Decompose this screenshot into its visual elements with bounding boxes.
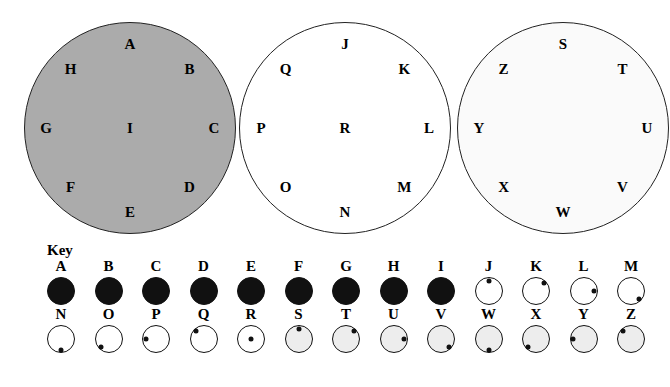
- key-letter-i: I: [418, 259, 464, 276]
- key-symbol-v: [427, 325, 455, 353]
- circle-two-label-j: J: [341, 37, 349, 52]
- circle-three-label-v: V: [617, 180, 628, 195]
- key-column-e: ER: [228, 259, 274, 355]
- key-circle-h: [380, 277, 408, 305]
- key-circle-v: [427, 325, 455, 353]
- key-column-i: IV: [418, 259, 464, 355]
- key-column-m: MZ: [608, 259, 654, 355]
- circle-two-label-n: N: [340, 205, 351, 220]
- circle-two-label-p: P: [256, 121, 265, 136]
- key-letter-v: V: [418, 307, 464, 324]
- key-symbol-l: [570, 277, 598, 305]
- key-symbol-w: [475, 325, 503, 353]
- circle-one-label-d: D: [184, 180, 195, 195]
- circle-diagram-area: ABCDEFGHIJKLMNOPQRSTUVWXYZ: [0, 0, 670, 245]
- key-circle-g: [332, 277, 360, 305]
- key-letter-q: Q: [181, 307, 227, 324]
- key-letter-f: F: [276, 259, 322, 276]
- key-symbol-e: [237, 277, 265, 305]
- key-column-h: HU: [371, 259, 417, 355]
- circle-one-label-c: C: [209, 121, 220, 136]
- circle-two: JKLMNOPQR: [239, 22, 451, 234]
- circle-three-label-w: W: [556, 205, 571, 220]
- key-letter-d: D: [181, 259, 227, 276]
- circle-three-label-u: U: [642, 121, 653, 136]
- key-dot-s: [296, 326, 301, 331]
- circle-three: STUVWXYZ: [457, 22, 669, 234]
- key-column-k: KX: [513, 259, 559, 355]
- circle-two-label-m: M: [397, 180, 411, 195]
- key-dot-j: [486, 278, 491, 283]
- circle-two-label-l: L: [424, 121, 434, 136]
- key-symbol-z: [617, 325, 645, 353]
- key-symbol-h: [380, 277, 408, 305]
- key-letter-w: W: [466, 307, 512, 324]
- circle-one-center-label: I: [127, 121, 133, 136]
- key-dot-w: [486, 347, 491, 352]
- key-symbol-g: [332, 277, 360, 305]
- key-letter-e: E: [228, 259, 274, 276]
- key-circle-m: [617, 277, 645, 305]
- key-dot-y: [571, 337, 576, 342]
- circle-three-label-s: S: [559, 37, 567, 52]
- key-circle-d: [190, 277, 218, 305]
- key-dot-o: [98, 345, 103, 350]
- key-column-f: FS: [276, 259, 322, 355]
- circle-three-label-t: T: [617, 61, 627, 76]
- key-column-c: CP: [133, 259, 179, 355]
- key-circle-i: [427, 277, 455, 305]
- key-letter-t: T: [323, 307, 369, 324]
- key-symbol-j: [475, 277, 503, 305]
- circle-one-label-g: G: [40, 121, 52, 136]
- key-symbol-t: [332, 325, 360, 353]
- key-letter-r: R: [228, 307, 274, 324]
- key-symbol-a: [47, 277, 75, 305]
- circle-two-label-k: K: [399, 61, 411, 76]
- key-symbol-u: [380, 325, 408, 353]
- key-letter-o: O: [86, 307, 132, 324]
- key-circle-e: [237, 277, 265, 305]
- key-symbol-q: [190, 325, 218, 353]
- circle-one-label-a: A: [125, 37, 136, 52]
- key-legend-area: Key ANBOCPDQERFSGTHUIVJWKXLYMZ: [0, 243, 670, 387]
- key-column-l: LY: [561, 259, 607, 355]
- key-letter-u: U: [371, 307, 417, 324]
- key-letter-g: G: [323, 259, 369, 276]
- key-circle-c: [142, 277, 170, 305]
- key-symbol-p: [142, 325, 170, 353]
- key-letter-b: B: [86, 259, 132, 276]
- key-dot-k: [542, 281, 547, 286]
- key-symbol-c: [142, 277, 170, 305]
- key-dot-t: [352, 329, 357, 334]
- circle-one-label-e: E: [125, 205, 135, 220]
- circle-two-label-q: Q: [280, 61, 292, 76]
- key-symbol-x: [522, 325, 550, 353]
- key-title: Key: [47, 243, 73, 258]
- key-dot-q: [193, 329, 198, 334]
- key-symbol-b: [95, 277, 123, 305]
- key-symbol-n: [47, 325, 75, 353]
- key-letter-c: C: [133, 259, 179, 276]
- circle-one-label-b: B: [184, 61, 194, 76]
- key-letter-z: Z: [608, 307, 654, 324]
- key-letter-y: Y: [561, 307, 607, 324]
- key-letter-m: M: [608, 259, 654, 276]
- key-dot-m: [637, 297, 642, 302]
- key-column-g: GT: [323, 259, 369, 355]
- key-dot-u: [402, 337, 407, 342]
- key-symbol-f: [285, 277, 313, 305]
- circle-one-label-h: H: [65, 61, 77, 76]
- circle-three-label-y: Y: [474, 121, 485, 136]
- key-letter-l: L: [561, 259, 607, 276]
- circle-two-label-o: O: [280, 180, 292, 195]
- key-column-d: DQ: [181, 259, 227, 355]
- key-dot-x: [526, 345, 531, 350]
- key-dot-p: [143, 337, 148, 342]
- key-column-b: BO: [86, 259, 132, 355]
- key-letter-a: A: [38, 259, 84, 276]
- key-letter-s: S: [276, 307, 322, 324]
- key-letter-n: N: [38, 307, 84, 324]
- key-letter-x: X: [513, 307, 559, 324]
- key-symbol-m: [617, 277, 645, 305]
- key-circle-a: [47, 277, 75, 305]
